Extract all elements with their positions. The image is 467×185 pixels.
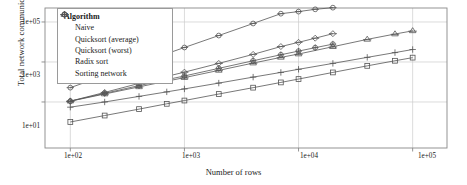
legend-item-label: Sorting network [75,68,127,79]
triangle-marker-icon [62,68,75,79]
chart-container: Total network communication (MB) Number … [0,0,467,185]
legend-item-label: Radix sort [75,56,108,67]
circle-cross-marker-icon [62,34,75,45]
diamond-marker-icon [62,45,75,56]
legend-item-sorting-network[interactable]: Sorting network [62,68,168,79]
legend-item-label: Naive [75,22,94,33]
legend-item-quicksort-worst[interactable]: Quicksort (worst) [62,45,168,56]
legend-entries: NaiveQuicksort (average)Quicksort (worst… [62,22,168,79]
legend-item-naive[interactable]: Naive [62,22,168,33]
legend-title: Algorithm [64,12,168,21]
legend: Algorithm NaiveQuicksort (average)Quicks… [57,8,173,84]
legend-item-radix-sort[interactable]: Radix sort [62,56,168,67]
legend-item-label: Quicksort (worst) [75,45,132,56]
circle-marker-icon [62,22,75,33]
plus-marker-icon [62,56,75,67]
legend-item-label: Quicksort (average) [75,34,139,45]
legend-item-quicksort-average[interactable]: Quicksort (average) [62,33,168,44]
